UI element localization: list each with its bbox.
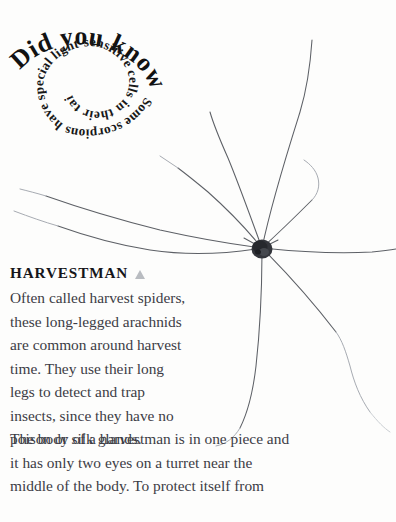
harvestman-leg-7a (262, 200, 312, 248)
spiral-text-svg: Did you know? Some scorpions have specia… (0, 0, 210, 150)
body-line: legs to detect and trap (10, 380, 228, 404)
body-line: insects, since they have no (10, 404, 228, 428)
body-line: these long-legged arachnids (10, 310, 228, 334)
article-body-wide: The body of a harvestman is in one piece… (10, 427, 396, 498)
harvestman-leg-9b (336, 332, 370, 412)
body-line: The body of a harvestman is in one piece… (10, 427, 396, 451)
harvestman-leg-4-tip (20, 189, 46, 196)
harvestman-leg-2 (210, 112, 262, 248)
did-you-know-headline-path: Did you know? (0, 0, 173, 93)
harvestman-pedipalp-left (244, 238, 262, 248)
harvestman-leg-7b (304, 160, 319, 200)
book-page: Did you know? Some scorpions have specia… (0, 0, 396, 522)
harvestman-body (252, 240, 273, 259)
body-line: are common around harvest (10, 333, 228, 357)
harvestman-leg-1 (262, 40, 312, 248)
body-line: time. They use their long (10, 357, 228, 381)
harvestman-leg-3-tip (160, 156, 178, 168)
did-you-know-fact: Some scorpions have special light-sensit… (0, 0, 155, 142)
harvestman-leg-8 (240, 248, 262, 428)
page-title: HARVESTMAN (10, 264, 128, 282)
harvestman-leg-5 (58, 226, 262, 254)
did-you-know-spiral: Did you know? Some scorpions have specia… (0, 0, 210, 150)
harvestman-leg-4 (46, 196, 262, 248)
harvestman-leg-5-tip (14, 211, 58, 226)
article-body-narrow: Often called harvest spiders, these long… (10, 286, 228, 451)
article-heading: HARVESTMAN (10, 264, 145, 282)
harvestman-leg-9a (262, 248, 336, 332)
body-line: it has only two eyes on a turret near th… (10, 451, 396, 475)
triangle-up-icon (135, 270, 145, 279)
did-you-know-fact-path: Some scorpions have special light-sensit… (0, 0, 155, 142)
body-line: Often called harvest spiders, (10, 286, 228, 310)
body-line: middle of the body. To protect itself fr… (10, 474, 396, 498)
harvestman-pedipalp-right (262, 240, 278, 248)
did-you-know-headline: Did you know? (0, 0, 173, 93)
harvestman-leg-3 (178, 168, 262, 248)
harvestman-leg-6 (262, 248, 396, 253)
